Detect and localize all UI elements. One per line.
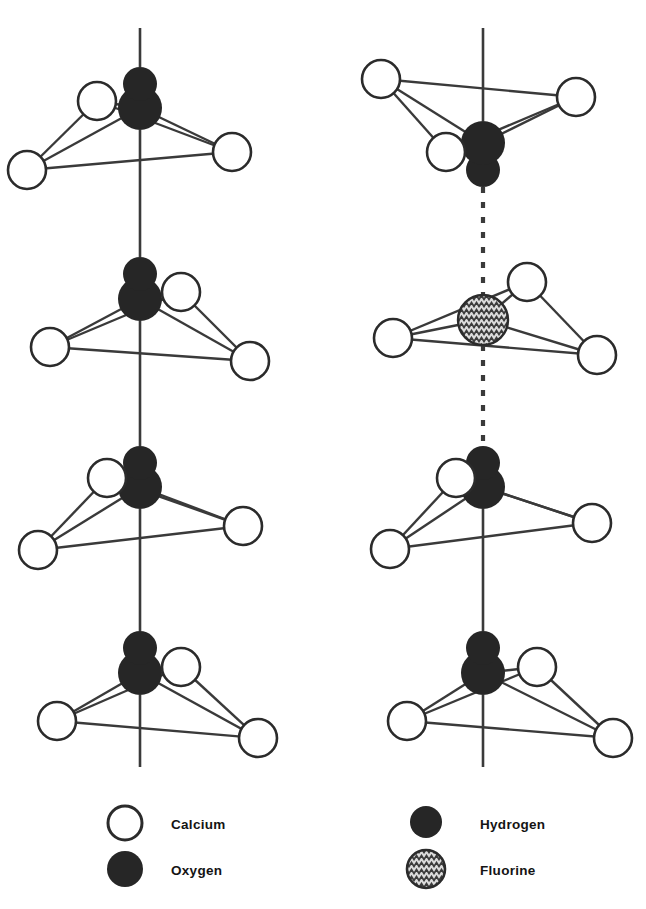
legend-fluorine: Fluorine (407, 850, 536, 888)
ca-ca-bond-hydroxyapatite-column-u1-e3 (97, 101, 232, 152)
calcium-atom-fluorapatite-column-u1-2 (557, 78, 595, 116)
calcium-atom-fluorapatite-column-u2-1 (508, 263, 546, 301)
oxygen-atom-fluorapatite-column-u1 (461, 121, 505, 165)
ca-ca-bond-fluorapatite-column-u3-e2 (390, 523, 592, 549)
legend: CalciumOxygenHydrogenFluorine (107, 806, 545, 888)
ca-ca-bond-hydroxyapatite-column-u2-e2 (50, 347, 250, 361)
ca-ca-bond-fluorapatite-column-u1-e1 (381, 79, 576, 97)
calcium-atom-hydroxyapatite-column-u2-2 (31, 328, 69, 366)
calcium-atom-fluorapatite-column-u3-1 (437, 459, 475, 497)
calcium-atom-hydroxyapatite-column-u1-3 (213, 133, 251, 171)
calcium-atom-fluorapatite-column-u2-2 (374, 319, 412, 357)
calcium-legend-icon (108, 806, 142, 840)
figure-root: CalciumOxygenHydrogenFluorine (0, 0, 646, 909)
calcium-atom-hydroxyapatite-column-u1-2 (8, 151, 46, 189)
ca-ca-bond-hydroxyapatite-column-u1-e2 (27, 152, 232, 170)
calcium-atom-fluorapatite-column-u4-3 (594, 719, 632, 757)
hydrogen-legend-icon (410, 806, 442, 838)
hydrogen-atom-fluorapatite-column-u4 (466, 631, 500, 665)
calcium-atom-fluorapatite-column-u1-1 (362, 60, 400, 98)
hydrogen-atom-hydroxyapatite-column-u1 (123, 67, 157, 101)
legend-fluorine-label: Fluorine (480, 863, 536, 878)
fluorine-legend-icon (407, 850, 445, 888)
calcium-atom-hydroxyapatite-column-u3-3 (224, 507, 262, 545)
calcium-atom-fluorapatite-column-u4-1 (518, 648, 556, 686)
calcium-atom-fluorapatite-column-u3-2 (371, 530, 409, 568)
calcium-atom-hydroxyapatite-column-u2-1 (162, 273, 200, 311)
calcium-atom-hydroxyapatite-column-u1-1 (78, 82, 116, 120)
calcium-atom-hydroxyapatite-column-u2-3 (231, 342, 269, 380)
legend-calcium: Calcium (108, 806, 226, 840)
ca-ca-bond-hydroxyapatite-column-u4-e2 (57, 721, 258, 738)
legend-oxygen-label: Oxygen (171, 863, 222, 878)
calcium-atom-fluorapatite-column-u4-2 (388, 702, 426, 740)
calcium-atom-hydroxyapatite-column-u4-3 (239, 719, 277, 757)
hydrogen-atom-hydroxyapatite-column-u2 (123, 257, 157, 291)
hydrogen-atom-hydroxyapatite-column-u4 (123, 631, 157, 665)
fluorine-atom-fluorapatite-column-u2 (458, 295, 508, 345)
calcium-atom-hydroxyapatite-column-u4-1 (162, 648, 200, 686)
calcium-atom-fluorapatite-column-u1-3 (427, 133, 465, 171)
legend-hydrogen-label: Hydrogen (480, 817, 545, 832)
calcium-atom-hydroxyapatite-column-u3-2 (19, 531, 57, 569)
legend-hydrogen: Hydrogen (410, 806, 545, 838)
legend-oxygen: Oxygen (107, 851, 222, 887)
calcium-atom-fluorapatite-column-u2-3 (578, 336, 616, 374)
molecular-structure-diagram: CalciumOxygenHydrogenFluorine (0, 0, 646, 909)
calcium-atom-hydroxyapatite-column-u3-1 (88, 459, 126, 497)
oxygen-legend-icon (107, 851, 143, 887)
calcium-atom-fluorapatite-column-u3-3 (573, 504, 611, 542)
calcium-atom-hydroxyapatite-column-u4-2 (38, 702, 76, 740)
legend-calcium-label: Calcium (171, 817, 226, 832)
hydrogen-atom-hydroxyapatite-column-u3 (123, 446, 157, 480)
